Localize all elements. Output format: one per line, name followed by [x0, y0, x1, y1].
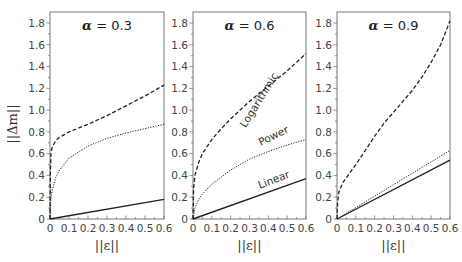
y-tick-label: 1.8 [171, 17, 188, 29]
y-tick-label: 1.2 [315, 82, 332, 94]
y-tick-label: 0 [181, 213, 188, 225]
y-tick-label: 1.8 [28, 17, 45, 29]
y-tick-label: 0.2 [171, 191, 188, 203]
y-tick-label: 0.8 [28, 126, 45, 138]
y-tick-label: 0.6 [171, 147, 188, 159]
x-tick-label: 0 [190, 222, 197, 234]
x-tick-label: 0 [47, 222, 54, 234]
x-tick-label: 0.5 [137, 222, 154, 234]
panels-group: 00.20.40.60.81.01.21.41.61.800.10.20.30.… [28, 12, 458, 253]
x-axis-label: ||ε|| [381, 238, 405, 253]
y-tick-label: 1.0 [28, 104, 45, 116]
y-tick-label: 1.4 [315, 60, 332, 72]
y-tick-label: 0.2 [315, 191, 332, 203]
y-axis-label: ||Δm|| [5, 104, 20, 143]
y-tick-label: 1.2 [28, 82, 45, 94]
x-tick-label: 0.5 [279, 222, 296, 234]
x-tick-label: 0.4 [404, 222, 421, 234]
y-tick-label: 1.8 [315, 17, 332, 29]
y-tick-label: 1.2 [171, 82, 188, 94]
panel-3: 00.20.40.60.81.01.21.41.61.800.10.20.30.… [315, 12, 458, 253]
chart-figure: 00.20.40.60.81.01.21.41.61.800.10.20.30.… [0, 0, 462, 262]
series-logarithmic [50, 85, 164, 219]
y-tick-label: 1.6 [315, 39, 332, 51]
y-tick-label: 1.0 [315, 104, 332, 116]
series-logarithmic [193, 54, 306, 220]
x-tick-label: 0.4 [260, 222, 277, 234]
y-tick-label: 0.4 [28, 169, 45, 181]
curve-label-power: Power [256, 123, 290, 148]
y-tick-label: 0.2 [28, 191, 45, 203]
y-tick-label: 0.4 [171, 169, 188, 181]
y-tick-label: 0.4 [315, 169, 332, 181]
plot-frame [337, 12, 450, 219]
series-power [50, 124, 164, 219]
x-tick-label: 0.5 [423, 222, 440, 234]
y-tick-label: 1.0 [171, 104, 188, 116]
x-axis-label: ||ε|| [237, 238, 261, 253]
panel-1: 00.20.40.60.81.01.21.41.61.800.10.20.30.… [28, 12, 172, 253]
x-tick-label: 0.3 [385, 222, 402, 234]
y-tick-label: 0.8 [315, 126, 332, 138]
x-tick-label: 0.1 [347, 222, 364, 234]
x-tick-label: 0.6 [298, 222, 315, 234]
y-tick-label: 1.4 [28, 60, 45, 72]
series-power [337, 150, 450, 219]
series-linear [337, 160, 450, 219]
x-tick-label: 0.4 [118, 222, 135, 234]
panel-title: α = 0.9 [369, 18, 419, 33]
x-tick-label: 0.6 [156, 222, 173, 234]
panel-title: α = 0.6 [225, 18, 275, 33]
y-tick-label: 0 [38, 213, 45, 225]
y-tick-label: 1.4 [171, 60, 188, 72]
x-tick-label: 0.3 [241, 222, 258, 234]
x-tick-label: 0.3 [99, 222, 116, 234]
y-tick-label: 0 [325, 213, 332, 225]
panel-2: 00.20.40.60.81.01.21.41.61.800.10.20.30.… [171, 12, 314, 253]
y-tick-label: 1.6 [171, 39, 188, 51]
curve-label-linear: Linear [256, 168, 291, 191]
y-tick-label: 0.6 [28, 147, 45, 159]
x-tick-label: 0.1 [61, 222, 78, 234]
x-axis-label: ||ε|| [95, 238, 119, 253]
x-tick-label: 0.1 [203, 222, 220, 234]
x-tick-label: 0.2 [366, 222, 383, 234]
panel-title: α = 0.3 [82, 18, 132, 33]
y-tick-label: 1.6 [28, 39, 45, 51]
series-linear [193, 179, 306, 219]
x-tick-label: 0.6 [442, 222, 459, 234]
y-tick-label: 0.8 [171, 126, 188, 138]
x-tick-label: 0.2 [80, 222, 97, 234]
curve-label-logarithmic: Logarithmic [237, 70, 280, 129]
x-tick-label: 0 [334, 222, 341, 234]
x-tick-label: 0.2 [222, 222, 239, 234]
y-tick-label: 0.6 [315, 147, 332, 159]
